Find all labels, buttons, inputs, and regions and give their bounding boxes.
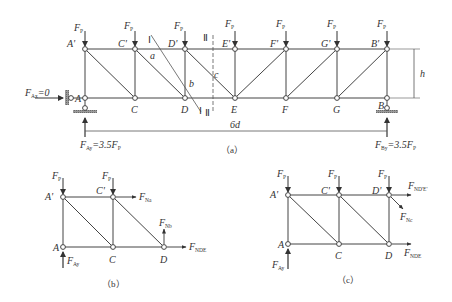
svg-text:FP: FP [101, 170, 111, 182]
force-ND'E'-label: FND'E' [407, 180, 427, 192]
svg-text:D: D [180, 104, 189, 115]
svg-text:FP: FP [376, 18, 386, 30]
force-Nc-arrow [391, 197, 403, 209]
svg-text:FP: FP [173, 20, 183, 32]
diagonals [85, 49, 387, 98]
svg-text:FP: FP [275, 18, 285, 30]
horizontal-reaction-label: FAx=0 [24, 87, 50, 99]
left-reaction-label: FAy=3.5FP [79, 139, 121, 151]
right-reaction-label: FBy=3.5FP [374, 139, 416, 151]
svg-text:F: F [281, 104, 289, 115]
svg-text:G': G' [321, 38, 331, 49]
svg-text:A': A' [66, 38, 76, 49]
svg-text:D: D [159, 254, 168, 265]
svg-text:C: C [335, 250, 342, 261]
figure-a: FP FP FP FP FP FP FP A' C' D' E' F' G' B… [24, 18, 425, 155]
force-Na-label: FNa [138, 191, 152, 203]
svg-text:D: D [384, 250, 393, 261]
svg-text:FAy: FAy [66, 255, 80, 267]
svg-text:FAy: FAy [271, 259, 285, 271]
svg-text:A': A' [44, 191, 54, 202]
svg-text:C: C [109, 254, 116, 265]
span-label: 6d [230, 119, 241, 130]
svg-text:A: A [277, 239, 285, 250]
svg-text:A: A [52, 242, 60, 253]
height-dimension [390, 49, 420, 98]
caption-b: （b） [102, 279, 125, 289]
figure-b: FP FP A' C' A C D FNa FNb FNDE FAy （b） [44, 170, 207, 289]
svg-text:FP: FP [326, 18, 336, 30]
svg-text:FP: FP [377, 168, 387, 180]
svg-text:B: B [378, 100, 384, 111]
svg-text:C': C' [96, 185, 106, 196]
force-NDE-label: FNDE [188, 241, 207, 253]
section-2-top-label: Ⅱ [203, 32, 208, 43]
svg-text:FP: FP [123, 20, 133, 32]
load-labels: FP FP FP FP FP FP FP [73, 18, 386, 34]
verticals [85, 49, 387, 98]
caption-c: （c） [337, 275, 359, 285]
section-1-bottom-label: Ⅰ [199, 105, 202, 116]
svg-text:C': C' [321, 185, 331, 196]
svg-text:FP: FP [224, 18, 234, 30]
height-label: h [420, 68, 425, 79]
svg-text:FP: FP [73, 22, 83, 34]
member-b-label: b [189, 78, 194, 89]
figure-c: FP FP FP A' C' D' A C D FND'E' FNc FNDE … [269, 168, 427, 285]
member-a-label: a [150, 50, 155, 61]
svg-text:C: C [131, 104, 138, 115]
section-2-bottom-label: Ⅱ [205, 107, 210, 118]
truss-diagram: FP FP FP FP FP FP FP A' C' D' E' F' G' B… [0, 0, 452, 302]
svg-text:F': F' [269, 38, 279, 49]
section-1-top-label: Ⅰ [148, 34, 151, 45]
svg-text:E': E' [221, 38, 231, 49]
caption-a: （a） [221, 145, 243, 155]
svg-text:FP: FP [276, 168, 286, 180]
svg-text:FP: FP [51, 170, 61, 182]
member-c-label: c [214, 69, 219, 80]
svg-text:D': D' [167, 38, 178, 49]
svg-text:G: G [333, 104, 340, 115]
svg-text:D': D' [371, 185, 382, 196]
applied-loads [85, 31, 387, 46]
force-Nc-label: FNc [399, 211, 413, 223]
force-Nb-label: FNb [158, 217, 172, 229]
force-NDE-label: FNDE [403, 247, 422, 259]
svg-text:C': C' [118, 38, 128, 49]
top-node-labels: A' C' D' E' F' G' B' [66, 38, 380, 49]
svg-text:A': A' [269, 189, 279, 200]
svg-text:E: E [230, 104, 237, 115]
svg-text:B': B' [371, 38, 380, 49]
svg-text:FP: FP [327, 168, 337, 180]
